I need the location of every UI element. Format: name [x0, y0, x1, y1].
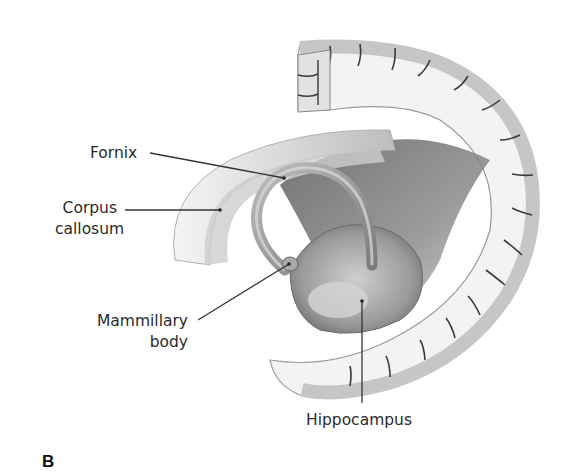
- hippocampus-shape: [290, 225, 423, 334]
- corpus-callosum-label: Corpus callosum: [55, 198, 117, 240]
- fornix-label: Fornix: [90, 143, 137, 164]
- hippocampus-label: Hippocampus: [306, 410, 412, 431]
- mammillary-body-label-line2: body: [80, 332, 188, 353]
- panel-letter: B: [42, 452, 54, 472]
- corpus-callosum-label-line2: callosum: [55, 219, 117, 240]
- corpus-callosum-label-line1: Corpus: [55, 198, 117, 219]
- figure-canvas: Fornix Corpus callosum Mammillary body H…: [0, 0, 566, 473]
- mammillary-body-label-line1: Mammillary: [80, 311, 188, 332]
- mammillary-body-label: Mammillary body: [80, 311, 188, 353]
